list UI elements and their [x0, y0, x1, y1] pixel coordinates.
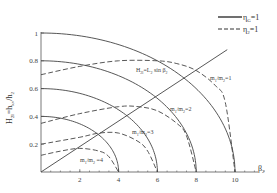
y-tick-label: 0.2: [29, 141, 38, 149]
chart: 2468100.20.40.60.81 H2l=hkv/h2 β2 ηG=1 η…: [0, 0, 277, 193]
eta-2-curve-m1-m2-1: [41, 60, 235, 172]
eta-2-curve-m1-m2-2: [41, 106, 196, 172]
ticks: [41, 33, 264, 172]
legend: ηG=1 η2=1: [218, 13, 259, 35]
y-axis-title: H2l=hkv/h2: [5, 92, 15, 124]
series: [41, 33, 235, 172]
x-tick-label: 6: [156, 176, 160, 184]
x-axis-title: β2: [258, 164, 265, 174]
x-tick-label: 2: [78, 176, 82, 184]
annotation-m1: m1/m2=1: [210, 75, 231, 83]
annotation-m2: m1/m2=2: [170, 106, 191, 114]
y-tick-label: 0.6: [29, 85, 38, 93]
legend-solid-label: ηG=1: [243, 13, 259, 23]
h-l-sin-beta-line: [41, 50, 227, 172]
svg-text:H2l=hkv/h2: H2l=hkv/h2: [5, 92, 15, 124]
eta-g-curve-r10: [41, 33, 235, 172]
x-tick-label: 4: [117, 176, 121, 184]
annotation-m4: m1/m2 =4: [80, 157, 103, 165]
eta-g-curve-r4: [41, 116, 119, 172]
x-tick-label: 10: [232, 176, 240, 184]
eta-g-curve-r8: [41, 61, 196, 172]
y-tick-label: 1: [35, 30, 39, 38]
y-tick-label: 0.8: [29, 57, 38, 65]
y-tick-label: 0.4: [29, 113, 38, 121]
tick-labels: 2468100.20.40.60.81: [29, 30, 239, 185]
legend-dashed-label: η2=1: [243, 25, 258, 35]
annotation-m3: m1/m2=3: [132, 129, 153, 137]
x-tick-label: 8: [194, 176, 198, 184]
eta-2-curve-m1-m2-3: [41, 132, 157, 172]
annotation-line-label: H2l=L2 sin β2: [136, 67, 168, 75]
